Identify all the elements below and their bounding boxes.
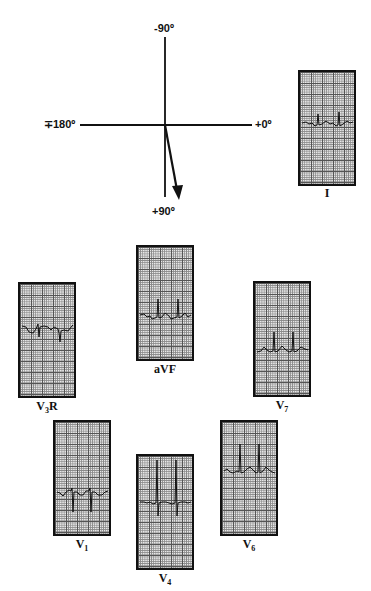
ecg-strip-lead-v6 [220, 420, 278, 536]
axis-label-180: ∓180º [44, 118, 75, 131]
axis-label-plus90: +90º [152, 205, 175, 217]
ecg-trace [55, 422, 109, 534]
ecg-trace [20, 284, 74, 396]
ecg-strip-lead-v7 [253, 281, 311, 397]
ecg-strip-lead-avf [136, 245, 194, 361]
axis-label-minus90: -90º [154, 22, 174, 34]
lead-label-v3r: V3R [18, 399, 76, 415]
axis-vector-line [165, 125, 177, 190]
ecg-strip-lead-v3r [18, 282, 76, 398]
lead-label-v7: V7 [253, 398, 311, 414]
ecg-trace [300, 72, 354, 184]
arrow-head-icon [172, 185, 183, 200]
ecg-trace [255, 283, 309, 395]
ecg-strip-lead-v1 [53, 420, 111, 536]
ecg-strip-lead-i [298, 70, 356, 186]
lead-label-i: I [298, 186, 356, 201]
ecg-trace [138, 456, 192, 568]
lead-label-v6: V6 [220, 537, 278, 553]
lead-label-v4: V4 [136, 571, 194, 587]
lead-label-v1: V1 [53, 537, 111, 553]
ecg-strip-lead-v4 [136, 454, 194, 570]
ecg-trace [138, 247, 192, 359]
lead-label-avf: aVF [136, 362, 194, 377]
axis-label-0: +0º [255, 118, 272, 130]
ecg-trace [222, 422, 276, 534]
